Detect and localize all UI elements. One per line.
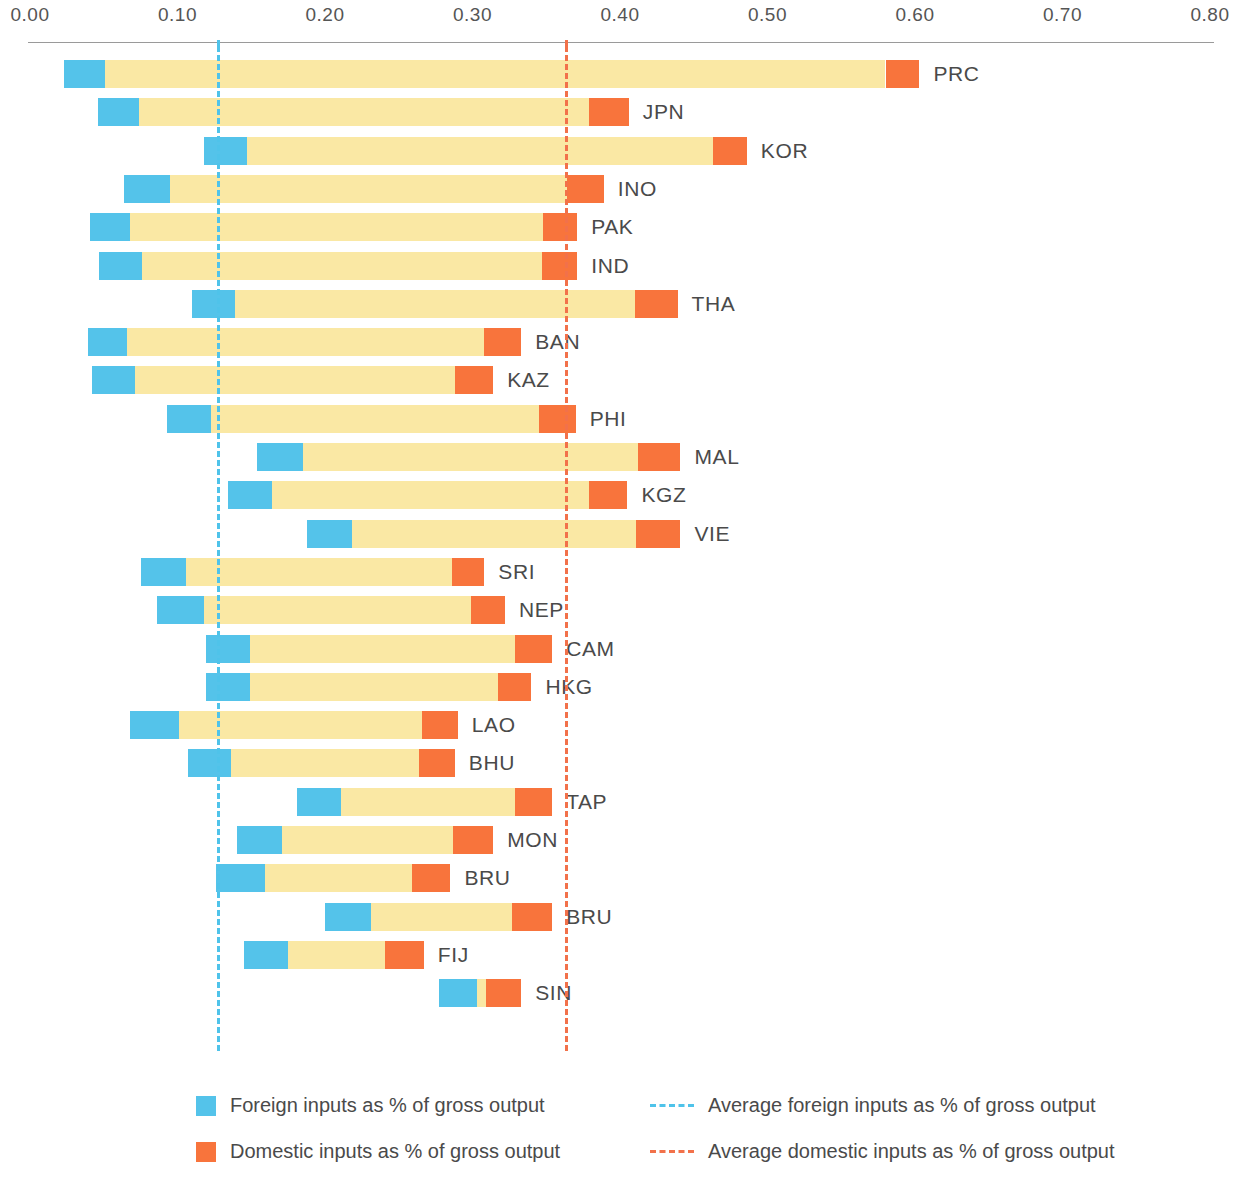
bar-segment-domestic[interactable] xyxy=(512,903,552,931)
bar-segment-middle[interactable] xyxy=(477,979,486,1007)
bar-row[interactable]: HKG xyxy=(0,673,1241,701)
legend-item[interactable]: Average foreign inputs as % of gross out… xyxy=(650,1094,1096,1117)
bar-segment-foreign[interactable] xyxy=(297,788,341,816)
bar-row[interactable]: KGZ xyxy=(0,481,1241,509)
bar-segment-foreign[interactable] xyxy=(98,98,139,126)
bar-segment-foreign[interactable] xyxy=(124,175,170,203)
bar-segment-middle[interactable] xyxy=(170,175,567,203)
bar-segment-foreign[interactable] xyxy=(92,366,135,394)
bar-segment-middle[interactable] xyxy=(341,788,515,816)
bar-segment-foreign[interactable] xyxy=(244,941,288,969)
bar-row[interactable]: MAL xyxy=(0,443,1241,471)
bar-row[interactable]: IND xyxy=(0,252,1241,280)
bar-row[interactable]: KAZ xyxy=(0,366,1241,394)
bar-row[interactable]: KOR xyxy=(0,137,1241,165)
legend-item[interactable]: Average domestic inputs as % of gross ou… xyxy=(650,1140,1115,1163)
bar-row[interactable]: NEP xyxy=(0,596,1241,624)
bar-segment-foreign[interactable] xyxy=(257,443,303,471)
bar-segment-middle[interactable] xyxy=(179,711,422,739)
bar-segment-foreign[interactable] xyxy=(88,328,128,356)
bar-segment-foreign[interactable] xyxy=(325,903,371,931)
bar-segment-middle[interactable] xyxy=(288,941,385,969)
bar-segment-domestic[interactable] xyxy=(542,252,577,280)
bar-row[interactable]: INO xyxy=(0,175,1241,203)
bar-segment-middle[interactable] xyxy=(272,481,589,509)
bar-segment-foreign[interactable] xyxy=(141,558,187,586)
bar-row[interactable]: SRI xyxy=(0,558,1241,586)
bar-row[interactable]: SIN xyxy=(0,979,1241,1007)
bar-segment-foreign[interactable] xyxy=(307,520,351,548)
bar-segment-middle[interactable] xyxy=(211,405,538,433)
bar-segment-middle[interactable] xyxy=(247,137,713,165)
bar-segment-domestic[interactable] xyxy=(422,711,457,739)
bar-row[interactable]: TAP xyxy=(0,788,1241,816)
bar-row[interactable]: CAM xyxy=(0,635,1241,663)
bar-segment-domestic[interactable] xyxy=(886,60,920,88)
bar-segment-middle[interactable] xyxy=(371,903,513,931)
bar-row[interactable]: PAK xyxy=(0,213,1241,241)
bar-segment-foreign[interactable] xyxy=(228,481,272,509)
bar-segment-domestic[interactable] xyxy=(484,328,521,356)
bar-segment-domestic[interactable] xyxy=(419,749,454,777)
bar-row[interactable]: BRU xyxy=(0,903,1241,931)
legend-item[interactable]: Domestic inputs as % of gross output xyxy=(196,1140,560,1163)
bar-row[interactable]: BRU xyxy=(0,864,1241,892)
bar-row[interactable]: VIE xyxy=(0,520,1241,548)
bar-segment-domestic[interactable] xyxy=(515,635,552,663)
bar-segment-foreign[interactable] xyxy=(206,673,250,701)
bar-segment-domestic[interactable] xyxy=(515,788,552,816)
bar-segment-foreign[interactable] xyxy=(192,290,235,318)
bar-segment-domestic[interactable] xyxy=(452,558,484,586)
bar-segment-foreign[interactable] xyxy=(64,60,105,88)
bar-row[interactable]: JPN xyxy=(0,98,1241,126)
bar-segment-foreign[interactable] xyxy=(216,864,265,892)
bar-segment-middle[interactable] xyxy=(130,213,543,241)
bar-segment-domestic[interactable] xyxy=(539,405,576,433)
bar-segment-domestic[interactable] xyxy=(635,290,678,318)
bar-segment-domestic[interactable] xyxy=(471,596,505,624)
bar-row[interactable]: BAN xyxy=(0,328,1241,356)
bar-segment-middle[interactable] xyxy=(105,60,885,88)
bar-row[interactable]: BHU xyxy=(0,749,1241,777)
bar-segment-domestic[interactable] xyxy=(455,366,493,394)
bar-segment-foreign[interactable] xyxy=(188,749,231,777)
bar-segment-domestic[interactable] xyxy=(453,826,493,854)
bar-segment-foreign[interactable] xyxy=(439,979,477,1007)
bar-segment-foreign[interactable] xyxy=(157,596,204,624)
bar-segment-domestic[interactable] xyxy=(412,864,450,892)
bar-segment-foreign[interactable] xyxy=(99,252,142,280)
bar-segment-domestic[interactable] xyxy=(567,175,604,203)
bar-segment-foreign[interactable] xyxy=(237,826,283,854)
bar-segment-foreign[interactable] xyxy=(130,711,179,739)
bar-segment-domestic[interactable] xyxy=(713,137,747,165)
bar-segment-middle[interactable] xyxy=(250,673,498,701)
bar-segment-domestic[interactable] xyxy=(543,213,577,241)
bar-segment-domestic[interactable] xyxy=(498,673,532,701)
bar-segment-middle[interactable] xyxy=(186,558,452,586)
bar-segment-domestic[interactable] xyxy=(385,941,423,969)
bar-segment-domestic[interactable] xyxy=(589,98,629,126)
bar-segment-domestic[interactable] xyxy=(486,979,521,1007)
legend-item[interactable]: Foreign inputs as % of gross output xyxy=(196,1094,545,1117)
bar-segment-middle[interactable] xyxy=(250,635,516,663)
bar-segment-middle[interactable] xyxy=(231,749,420,777)
bar-segment-middle[interactable] xyxy=(204,596,471,624)
bar-segment-middle[interactable] xyxy=(127,328,484,356)
bar-segment-middle[interactable] xyxy=(135,366,455,394)
bar-row[interactable]: PRC xyxy=(0,60,1241,88)
bar-segment-foreign[interactable] xyxy=(90,213,130,241)
bar-segment-domestic[interactable] xyxy=(589,481,627,509)
bar-segment-middle[interactable] xyxy=(265,864,413,892)
bar-row[interactable]: THA xyxy=(0,290,1241,318)
bar-row[interactable]: MON xyxy=(0,826,1241,854)
bar-segment-middle[interactable] xyxy=(303,443,638,471)
bar-row[interactable]: FIJ xyxy=(0,941,1241,969)
bar-row[interactable]: PHI xyxy=(0,405,1241,433)
bar-segment-domestic[interactable] xyxy=(638,443,681,471)
bar-segment-middle[interactable] xyxy=(139,98,589,126)
bar-segment-foreign[interactable] xyxy=(206,635,250,663)
bar-segment-middle[interactable] xyxy=(282,826,453,854)
bar-segment-middle[interactable] xyxy=(235,290,635,318)
bar-row[interactable]: LAO xyxy=(0,711,1241,739)
bar-segment-middle[interactable] xyxy=(352,520,637,548)
